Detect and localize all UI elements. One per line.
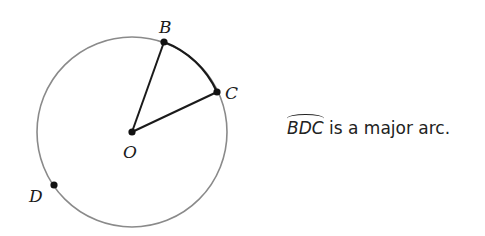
caption-text: is a major arc. (324, 118, 451, 138)
minor-arc-bc (164, 42, 217, 92)
label-c: C (225, 83, 238, 103)
label-o: O (123, 142, 137, 162)
label-b: B (158, 17, 172, 37)
label-d: D (28, 186, 43, 206)
point-c (213, 88, 220, 95)
caption: BDC is a major arc. (287, 118, 450, 138)
point-o (128, 128, 135, 135)
point-b (160, 38, 167, 45)
circle-diagram: B C D O (0, 0, 260, 236)
arc-name: BDC (287, 118, 324, 138)
point-d (50, 181, 57, 188)
